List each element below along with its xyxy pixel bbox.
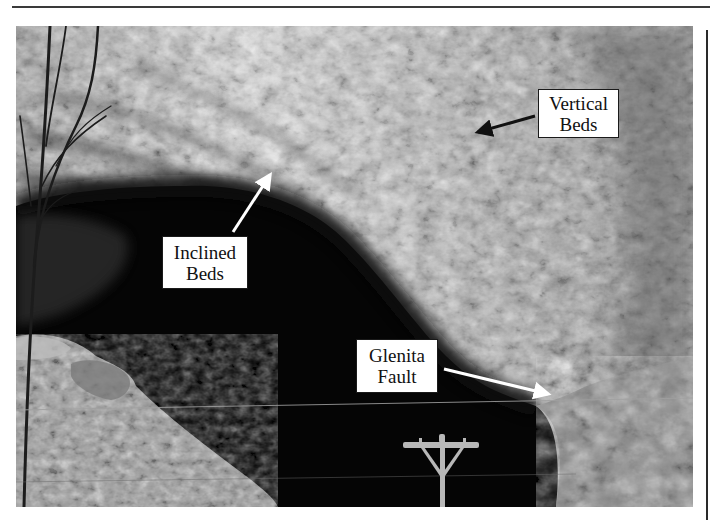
- glenita-fault-label-line1: Glenita: [363, 345, 431, 366]
- inclined-beds-label-line1: Inclined: [169, 242, 241, 263]
- glenita-fault-label: Glenita Fault: [356, 339, 438, 393]
- top-rule-divider: [12, 6, 710, 8]
- page-edge-line: [706, 30, 708, 520]
- glenita-fault-label-line2: Fault: [363, 366, 431, 387]
- vertical-beds-label-line2: Beds: [545, 114, 612, 135]
- vertical-beds-label-line1: Vertical: [545, 93, 612, 114]
- inclined-beds-label: Inclined Beds: [162, 236, 248, 289]
- inclined-beds-label-line2: Beds: [169, 263, 241, 284]
- vertical-beds-label: Vertical Beds: [538, 89, 619, 138]
